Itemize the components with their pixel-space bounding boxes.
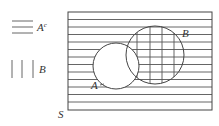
legend-item-a-complement: Ac bbox=[12, 21, 48, 33]
horizontal-hatching bbox=[68, 20, 212, 103]
horizontal-lines-icon bbox=[12, 21, 33, 33]
venn-diagram-figure: Ac B bbox=[0, 0, 219, 126]
vertical-lines-icon bbox=[12, 60, 33, 78]
set-a-label: A bbox=[90, 79, 98, 91]
universe-label: S bbox=[58, 108, 64, 120]
universe-s: S bbox=[58, 12, 212, 120]
legend-item-b: B bbox=[12, 60, 46, 78]
legend-label-a-complement: Ac bbox=[36, 21, 48, 33]
legend-label-b: B bbox=[39, 63, 46, 75]
set-b-label: B bbox=[182, 27, 189, 39]
set-a: A bbox=[90, 43, 139, 91]
